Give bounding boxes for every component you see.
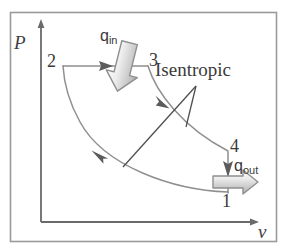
cycle-paths <box>63 66 228 193</box>
heat-out-symbol: q <box>234 157 243 174</box>
heat-in-label: qin <box>100 28 117 44</box>
p-axis-arrowhead <box>38 19 45 28</box>
process-1-2-path <box>63 66 228 192</box>
heat-in-subscript: in <box>109 34 118 46</box>
isentropic-label: Isentropic <box>155 60 231 79</box>
p-axis-label: P <box>14 33 26 52</box>
isentropic-leader-lines <box>123 86 196 167</box>
isentropic-leader-to-lower-curve <box>123 86 196 167</box>
state-point-label-1: 1 <box>222 192 231 210</box>
figure-border <box>11 13 277 242</box>
pv-diagram-figure: P v 2 3 4 1 qin qout Isentropic <box>0 0 285 252</box>
state-point-label-4: 4 <box>230 137 239 155</box>
state-point-label-2: 2 <box>47 52 56 70</box>
heat-out-label: qout <box>234 158 258 174</box>
heat-in-symbol: q <box>100 27 109 44</box>
heat-out-subscript: out <box>243 164 258 176</box>
diagram-canvas <box>0 0 285 252</box>
v-axis-label: v <box>258 222 266 241</box>
